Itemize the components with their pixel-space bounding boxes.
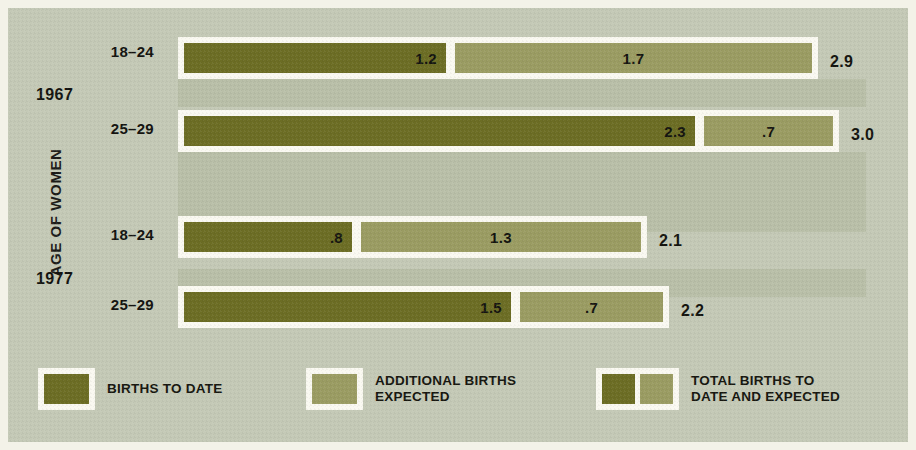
- value-label-dark-2: 2.3: [664, 123, 686, 140]
- year-label-1967: 1967: [36, 86, 73, 104]
- chart-plate: AGE OF WOMEN 1967 1977 18–24 25–29 18–24…: [8, 8, 908, 442]
- age-label-1967-18-24: 18–24: [80, 43, 154, 60]
- legend-item-total-births: TOTAL BIRTHS TO DATE AND EXPECTED: [596, 368, 840, 410]
- total-label-4: 2.2: [681, 302, 704, 320]
- segment-births-to-date-3: .8: [184, 222, 352, 252]
- chart-figure: AGE OF WOMEN 1967 1977 18–24 25–29 18–24…: [0, 0, 916, 450]
- legend-swatch-dark: [38, 368, 95, 410]
- segment-additional-expected-1: 1.7: [455, 43, 812, 73]
- legend-swatch-light: [306, 368, 363, 410]
- total-label-2: 3.0: [851, 126, 874, 144]
- segment-additional-expected-4: .7: [520, 292, 663, 322]
- year-label-1977: 1977: [36, 270, 73, 288]
- legend-label-total-births: TOTAL BIRTHS TO DATE AND EXPECTED: [691, 373, 840, 405]
- segment-additional-expected-3: 1.3: [361, 222, 641, 252]
- legend-item-additional-births-expected: ADDITIONAL BIRTHS EXPECTED: [306, 368, 516, 410]
- age-label-1977-25-29: 25–29: [80, 296, 154, 313]
- spacer-band-1: [178, 79, 866, 107]
- segment-additional-expected-2: .7: [704, 116, 833, 146]
- bar-row-1967-25-29: 2.3 .7: [178, 110, 839, 152]
- age-label-1977-18-24: 18–24: [80, 226, 154, 243]
- value-label-dark-3: .8: [330, 229, 343, 246]
- value-label-dark-1: 1.2: [415, 50, 437, 67]
- value-label-light-4: .7: [585, 299, 598, 316]
- bar-row-1977-25-29: 1.5 .7: [178, 286, 669, 328]
- legend-swatch-total: [596, 368, 679, 410]
- bar-row-1977-18-24: .8 1.3: [178, 216, 647, 258]
- segment-births-to-date-1: 1.2: [184, 43, 446, 73]
- total-label-1: 2.9: [830, 53, 853, 71]
- age-label-1967-25-29: 25–29: [80, 120, 154, 137]
- axis-title-age-of-women: AGE OF WOMEN: [47, 133, 64, 293]
- legend-label-births-to-date: BIRTHS TO DATE: [107, 381, 223, 397]
- plot-area: 1.2 1.7 2.9 2.3 .7 3.0 .8: [170, 26, 870, 346]
- value-label-light-3: 1.3: [490, 229, 512, 246]
- segment-births-to-date-4: 1.5: [184, 292, 511, 322]
- bar-row-1967-18-24: 1.2 1.7: [178, 37, 818, 79]
- value-label-dark-4: 1.5: [480, 299, 502, 316]
- legend-item-births-to-date: BIRTHS TO DATE: [38, 368, 223, 410]
- total-label-3: 2.1: [659, 232, 682, 250]
- value-label-light-2: .7: [762, 123, 775, 140]
- value-label-light-1: 1.7: [623, 50, 645, 67]
- segment-births-to-date-2: 2.3: [184, 116, 695, 146]
- chart-legend: BIRTHS TO DATE ADDITIONAL BIRTHS EXPECTE…: [16, 362, 916, 424]
- legend-label-additional-births-expected: ADDITIONAL BIRTHS EXPECTED: [375, 373, 516, 405]
